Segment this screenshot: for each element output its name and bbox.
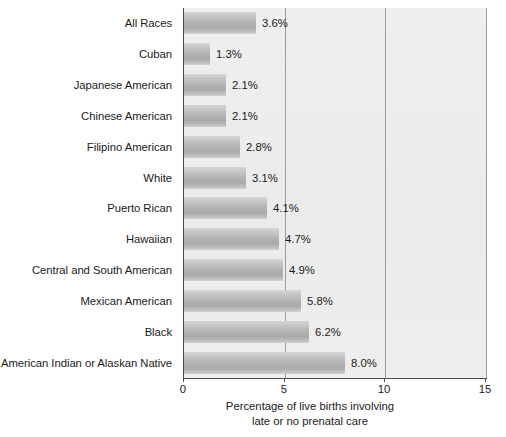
bar — [184, 167, 246, 189]
x-axis-line — [183, 378, 487, 379]
plot-area: 3.6% 1.3% 2.1% 2.1% 2.8% 3.1% 4.1% 4.7% — [184, 8, 487, 378]
x-tick — [485, 378, 486, 382]
x-tick-label: 10 — [364, 383, 404, 395]
bar-value-label: 4.9% — [289, 259, 315, 281]
category-label: Central and South American — [32, 259, 172, 281]
category-label: Filipino American — [87, 136, 172, 158]
bar-value-label: 6.2% — [315, 321, 341, 343]
bar — [184, 43, 210, 65]
bar-value-label: 4.1% — [273, 197, 299, 219]
bar — [184, 352, 345, 374]
category-label: Cuban — [139, 43, 172, 65]
gridline — [486, 8, 487, 378]
bar-value-label: 2.1% — [232, 105, 258, 127]
bar-value-label: 3.6% — [262, 12, 288, 34]
bar — [184, 74, 226, 96]
category-label: Chinese American — [81, 105, 172, 127]
bar — [184, 136, 240, 158]
category-label: Japanese American — [74, 74, 172, 96]
bar-value-label: 8.0% — [351, 352, 377, 374]
bar-value-label: 3.1% — [252, 167, 278, 189]
x-axis-title-line-2: late or no prenatal care — [184, 414, 436, 429]
bar-value-label: 2.1% — [232, 74, 258, 96]
bar-chart: All Races Cuban Japanese American Chines… — [0, 0, 506, 437]
category-label: All Races — [125, 12, 172, 34]
category-label: American Indian or Alaskan Native — [1, 352, 172, 374]
bar — [184, 197, 267, 219]
category-axis: All Races Cuban Japanese American Chines… — [0, 8, 178, 378]
category-label: White — [143, 167, 172, 189]
x-tick-label: 15 — [465, 383, 505, 395]
gridline — [385, 8, 386, 378]
bar-value-label: 4.7% — [285, 228, 311, 250]
bar — [184, 228, 279, 250]
bar — [184, 12, 256, 34]
bar — [184, 105, 226, 127]
y-axis-spine — [183, 8, 184, 379]
bar-value-label: 5.8% — [307, 290, 333, 312]
bar — [184, 259, 283, 281]
bar — [184, 290, 301, 312]
x-tick-label: 0 — [163, 383, 203, 395]
x-tick-label: 5 — [264, 383, 304, 395]
category-label: Mexican American — [81, 290, 173, 312]
category-label: Hawaiian — [126, 228, 172, 250]
category-label: Puerto Rican — [107, 197, 172, 219]
x-axis-title: Percentage of live births involving late… — [184, 399, 436, 429]
bar-value-label: 2.8% — [246, 136, 272, 158]
x-axis-title-line-1: Percentage of live births involving — [184, 399, 436, 414]
x-tick — [284, 378, 285, 382]
category-label: Black — [145, 321, 172, 343]
bar-value-label: 1.3% — [216, 43, 242, 65]
bar — [184, 321, 309, 343]
x-tick — [183, 378, 184, 382]
x-tick — [384, 378, 385, 382]
